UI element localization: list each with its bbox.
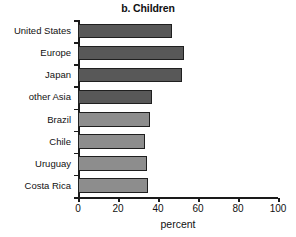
x-axis-tick xyxy=(238,198,240,202)
y-axis-tick xyxy=(74,20,78,22)
bar-slot xyxy=(78,42,278,64)
x-axis-tick-label: 20 xyxy=(98,203,138,214)
x-axis-tick-label: 60 xyxy=(178,203,218,214)
x-axis-line xyxy=(78,197,278,199)
bar[interactable] xyxy=(78,24,172,39)
category-label: Europe xyxy=(0,47,71,58)
x-axis-tick xyxy=(158,198,160,202)
bar[interactable] xyxy=(78,112,150,127)
bar-chart: b. Children 020406080100 percent United … xyxy=(0,0,296,237)
bar-slot xyxy=(78,175,278,197)
y-axis-tick xyxy=(74,109,78,111)
bar-slot xyxy=(78,131,278,153)
bar[interactable] xyxy=(78,68,182,83)
category-label: Brazil xyxy=(0,114,71,125)
bar-slot xyxy=(78,86,278,108)
x-axis-tick xyxy=(78,198,80,202)
category-label: Uruguay xyxy=(0,158,71,169)
x-axis-tick-label: 40 xyxy=(138,203,178,214)
bar[interactable] xyxy=(78,156,147,171)
bar-slot xyxy=(78,20,278,42)
x-axis-tick-label: 80 xyxy=(218,203,258,214)
x-axis-tick-label: 100 xyxy=(258,203,296,214)
y-axis-tick xyxy=(74,131,78,133)
x-axis-tick xyxy=(118,198,120,202)
y-axis-tick xyxy=(74,153,78,155)
bar[interactable] xyxy=(78,90,152,105)
y-axis-tick xyxy=(74,42,78,44)
x-axis-title: percent xyxy=(78,218,278,230)
bar-slot xyxy=(78,109,278,131)
x-axis-tick xyxy=(278,198,280,202)
bar-slot xyxy=(78,64,278,86)
bar[interactable] xyxy=(78,178,148,193)
bar[interactable] xyxy=(78,134,145,149)
category-label: United States xyxy=(0,25,71,36)
y-axis-tick xyxy=(74,175,78,177)
category-label: Costa Rica xyxy=(0,180,71,191)
y-axis-tick xyxy=(74,64,78,66)
bar-slot xyxy=(78,153,278,175)
category-label: other Asia xyxy=(0,91,71,102)
bar[interactable] xyxy=(78,46,184,61)
plot-area: 020406080100 xyxy=(78,20,278,197)
category-label: Chile xyxy=(0,136,71,147)
x-axis-tick-label: 0 xyxy=(58,203,98,214)
y-axis-tick xyxy=(74,86,78,88)
x-axis-tick xyxy=(198,198,200,202)
category-label: Japan xyxy=(0,69,71,80)
chart-title: b. Children xyxy=(0,2,296,14)
